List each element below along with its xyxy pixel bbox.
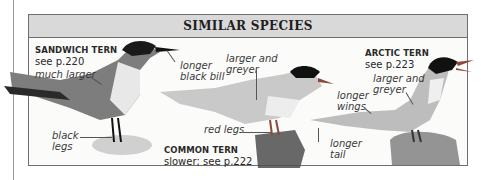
sandwich-annotation-longer: longer bbox=[180, 60, 212, 71]
arctic-tern-ref: see p.223 bbox=[365, 59, 414, 70]
common-tern-name: COMMON TERN bbox=[164, 145, 238, 156]
sandwich-annotation-black: black bbox=[52, 130, 79, 141]
arctic-tern-illustration bbox=[0, 0, 481, 180]
arctic-annotation-longer-wings-1: longer bbox=[337, 90, 369, 101]
leader-line bbox=[243, 132, 271, 133]
leader-line bbox=[80, 137, 112, 138]
arctic-annotation-greyer: greyer bbox=[373, 84, 406, 95]
arctic-annotation-longer-tail-1: longer bbox=[330, 138, 362, 149]
arctic-tern-name: ARCTIC TERN bbox=[365, 48, 429, 59]
common-tern-ref: slower; see p.222 bbox=[164, 156, 252, 167]
arctic-annotation-tail: tail bbox=[330, 149, 346, 160]
arctic-annotation-wings: wings bbox=[337, 101, 366, 112]
common-annotation-larger-and: larger and bbox=[226, 53, 278, 64]
sandwich-annotation-black-bill: black bill bbox=[180, 71, 224, 82]
sandwich-annotation-much-larger: much larger bbox=[35, 69, 96, 80]
common-annotation-red-legs: red legs bbox=[204, 124, 244, 135]
sandwich-tern-ref: see p.220 bbox=[35, 56, 84, 67]
leader-line bbox=[318, 128, 319, 142]
common-annotation-greyer: greyer bbox=[226, 64, 259, 75]
leader-line bbox=[256, 70, 257, 100]
sandwich-tern-name: SANDWICH TERN bbox=[35, 45, 117, 56]
sandwich-annotation-legs: legs bbox=[52, 141, 73, 152]
arctic-annotation-larger-and: larger and bbox=[373, 73, 425, 84]
